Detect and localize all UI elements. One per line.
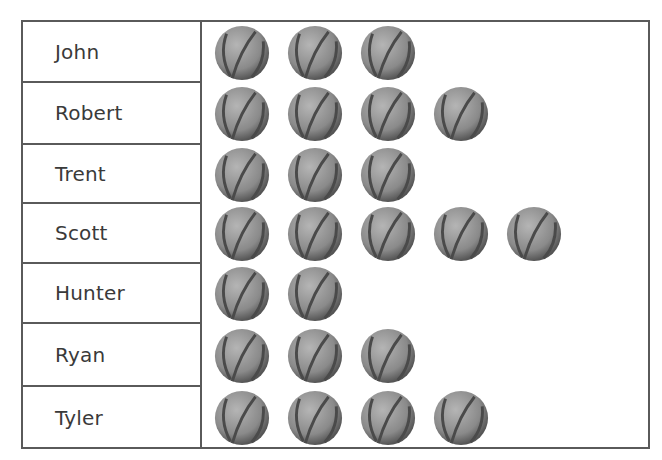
basketball-icon [213,24,271,82]
basketball-icon [213,389,271,447]
basketball-icon [213,327,271,385]
name-cell: John [23,22,200,83]
basketball-icon [286,205,344,263]
name-cell: Hunter [23,264,200,324]
name-cell: Tyler [23,387,200,449]
basketball-icon [213,85,271,143]
basketball-icon [359,24,417,82]
basketball-icon [505,205,563,263]
name-cell: Ryan [23,324,200,387]
ball-row [213,264,359,324]
basketball-icon [286,24,344,82]
basketball-icon [213,205,271,263]
name-cell: Scott [23,204,200,264]
name-label: Robert [23,101,123,125]
basketball-icon [432,85,490,143]
basketball-icon [359,205,417,263]
basketball-icon [359,85,417,143]
basketball-icon [286,327,344,385]
ball-row [213,84,505,144]
ball-row [213,204,578,264]
name-label: Trent [23,162,106,186]
pictograph-table: JohnRobertTrentScottHunterRyanTyler [21,20,650,449]
name-label: Scott [23,221,108,245]
ball-row [213,145,432,205]
name-label: Hunter [23,281,125,305]
basketball-icon [286,389,344,447]
basketball-icon [432,389,490,447]
ball-row [213,388,505,448]
name-cell: Trent [23,145,200,204]
basketball-icon [432,205,490,263]
name-label: Ryan [23,343,105,367]
basketball-icon [213,265,271,323]
name-cell: Robert [23,83,200,145]
basketball-icon [286,146,344,204]
basketball-icon [213,146,271,204]
basketball-icon [359,146,417,204]
ball-row [213,23,432,83]
basketball-icon [286,265,344,323]
name-label: Tyler [23,406,103,430]
basketball-icon [359,327,417,385]
ball-row [213,326,432,386]
name-column: JohnRobertTrentScottHunterRyanTyler [23,22,202,447]
basketball-icon [359,389,417,447]
basketball-icon [286,85,344,143]
name-label: John [23,40,99,64]
